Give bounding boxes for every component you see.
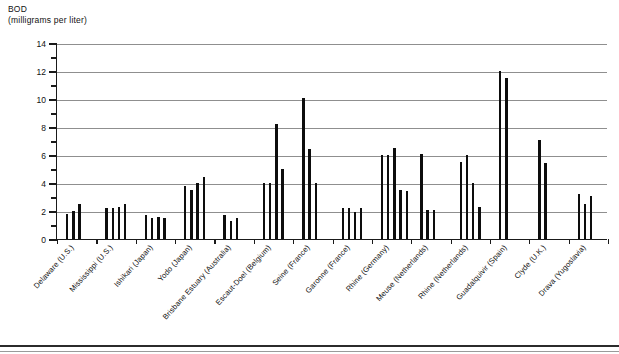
y-tick-minor-7 [51,141,57,142]
bar [281,169,283,239]
bar [118,207,120,239]
y-axis-title: BOD(milligrams per liter) [8,4,87,25]
x-axis-label: Brisbane Estuary (Australia) [161,243,233,321]
bar [78,204,80,239]
bar [393,148,395,239]
bar [544,163,546,239]
footer-rule-secondary [0,351,619,352]
bar [578,194,580,239]
bar [203,177,205,239]
y-tick-major-0 [49,239,57,240]
x-tick [608,239,609,244]
gridline-2 [57,212,607,213]
gridline-12 [57,72,607,73]
bar [163,218,165,239]
bar [406,191,408,239]
y-tick-major-6 [49,155,57,156]
bar [269,183,271,239]
y-axis-label-10: 10 [37,95,46,105]
y-axis-title-units: (milligrams per liter) [8,15,87,25]
bar [348,208,350,239]
x-tick [569,239,570,244]
x-axis-label: Clyde (U.K.) [513,243,548,281]
x-axis-label: Yodo (Japan) [156,243,194,283]
plot-area: 02468101214 [56,44,607,240]
bar [584,204,586,239]
x-tick [214,239,215,244]
y-tick-major-8 [49,127,57,128]
y-axis-label-6: 6 [41,151,46,161]
y-tick-major-10 [49,99,57,100]
bar [112,208,114,239]
bar [223,215,225,239]
bar [433,210,435,239]
y-tick-minor-1 [51,225,57,226]
y-axis-label-8: 8 [41,123,46,133]
y-tick-major-14 [49,43,57,44]
y-axis-label-12: 12 [37,67,46,77]
x-axis-label: Delaware (U.S.) [32,243,76,290]
bar [105,208,107,239]
gridline-10 [57,100,607,101]
y-axis-label-4: 4 [41,179,46,189]
x-tick [175,239,176,244]
y-tick-minor-13 [51,57,57,58]
bar [478,207,480,239]
x-tick [529,239,530,244]
bar [590,196,592,239]
x-tick [57,239,58,244]
gridline-14 [57,44,607,45]
bar [66,214,68,239]
x-tick [451,239,452,244]
bar [342,208,344,239]
y-axis-label-14: 14 [37,39,46,49]
bar [236,218,238,239]
bar [302,98,304,239]
bar [466,155,468,239]
y-tick-major-2 [49,211,57,212]
y-axis-label-0: 0 [41,235,46,245]
bar [426,210,428,239]
bar [381,155,383,239]
gridline-4 [57,184,607,185]
x-axis-label: Mississippi (U.S.) [68,243,115,294]
bar [308,149,310,239]
y-tick-minor-9 [51,113,57,114]
bar [190,190,192,239]
y-axis-title-line1: BOD [8,4,27,14]
bar [360,208,362,239]
y-tick-minor-3 [51,197,57,198]
bod-bar-chart-figure: BOD(milligrams per liter) 02468101214 De… [0,0,619,354]
bar [145,215,147,239]
y-tick-major-4 [49,183,57,184]
bar [263,183,265,239]
x-tick [333,239,334,244]
gridline-8 [57,128,607,129]
x-tick [254,239,255,244]
bar [354,212,356,239]
x-axis-label: Seine (France) [271,243,312,287]
gridline-6 [57,156,607,157]
x-tick [372,239,373,244]
x-axis-label: Ishikari (Japan) [112,243,154,289]
bar [184,186,186,239]
x-tick [490,239,491,244]
bar [230,221,232,239]
footer-rule [0,345,619,347]
y-tick-major-12 [49,71,57,72]
bar [72,211,74,239]
bar [387,155,389,239]
bar [538,140,540,239]
y-tick-minor-5 [51,169,57,170]
y-axis-label-2: 2 [41,207,46,217]
bar [275,124,277,239]
bar [460,162,462,239]
x-tick [96,239,97,244]
bar [124,204,126,239]
bar [499,71,501,239]
bar [399,190,401,239]
bar [420,154,422,239]
x-tick [411,239,412,244]
bar [505,78,507,239]
y-tick-minor-11 [51,85,57,86]
